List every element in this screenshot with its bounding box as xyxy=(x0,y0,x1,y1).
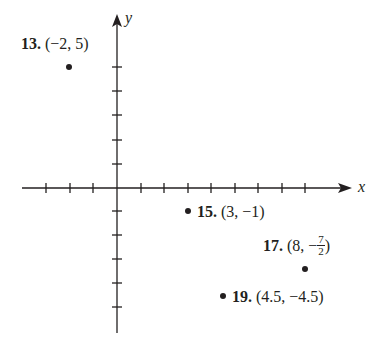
point-17 xyxy=(302,266,308,272)
fraction: 72 xyxy=(317,234,325,257)
point-13 xyxy=(66,64,72,70)
x-axis-label: x xyxy=(358,178,365,196)
point-15 xyxy=(185,208,191,214)
point-label-15: 15. (3, −1) xyxy=(197,204,265,220)
point-label-17: 17. (8, −72) xyxy=(263,238,330,257)
point-19 xyxy=(220,293,226,299)
point-label-13: 13. (−2, 5) xyxy=(21,36,89,52)
y-axis-label: y xyxy=(125,9,132,27)
point-label-19: 19. (4.5, −4.5) xyxy=(232,289,324,305)
